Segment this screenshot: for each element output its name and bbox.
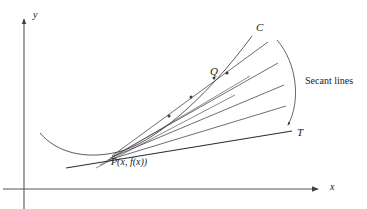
secant-bracket-arc: [277, 40, 296, 125]
secant-line-4: [108, 106, 286, 160]
intersection-dot: [190, 96, 193, 99]
y-axis-label: y: [33, 10, 37, 20]
tangent-label-t: T: [297, 127, 303, 138]
point-q-dot: [225, 71, 228, 74]
point-label-p: P(x, f(x)): [111, 157, 147, 167]
secant-lines-annotation: Secant lines: [305, 76, 353, 86]
intersection-dot: [168, 115, 171, 118]
x-axis-label: x: [330, 182, 334, 192]
secant-line-5: [100, 76, 250, 165]
curve-label-c: C: [256, 22, 263, 33]
secant-lines-figure: y x C Q T P(x, f(x)) Secant lines: [0, 0, 367, 209]
point-label-q: Q: [210, 66, 218, 77]
figure-canvas: [0, 0, 367, 209]
axes-group: [3, 19, 318, 209]
tangent-line-t: [66, 131, 292, 168]
